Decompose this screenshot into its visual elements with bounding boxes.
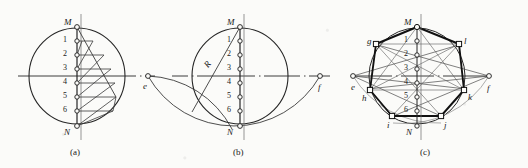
panel-b-division-5: 5 bbox=[227, 92, 231, 100]
panel-c-vertex-h: h bbox=[362, 94, 367, 103]
panel-b-drawing bbox=[146, 14, 330, 140]
panel-b-pole-f: f bbox=[318, 83, 321, 92]
panel-a-division-1: 1 bbox=[63, 36, 67, 44]
panel-b-pole-e: e bbox=[143, 82, 147, 91]
panel-c-pole-f: f bbox=[487, 84, 490, 93]
panel-a-division-5: 5 bbox=[63, 92, 67, 100]
panel-b-division-4: 4 bbox=[227, 78, 231, 86]
panel-c-division-3: 3 bbox=[404, 64, 408, 72]
panel-b-label-N: N bbox=[227, 128, 233, 137]
panel-c-division-6: 6 bbox=[404, 106, 408, 114]
panel-b-arc-from-M bbox=[148, 76, 232, 129]
panel-a-division-6: 6 bbox=[63, 106, 67, 114]
panel-a-division-2: 2 bbox=[63, 50, 67, 58]
panel-c-pole-e: e bbox=[351, 83, 355, 92]
panel-c-vertex-i: i bbox=[387, 121, 390, 130]
panel-b-division-1: 1 bbox=[227, 36, 231, 44]
panel-c-division-1: 1 bbox=[404, 36, 408, 44]
panel-b-division-6: 6 bbox=[227, 106, 231, 114]
panel-b-division-2: 2 bbox=[227, 50, 231, 58]
panel-c-label-N: N bbox=[406, 128, 412, 137]
panel-a-division-3: 3 bbox=[63, 64, 67, 72]
panel-c-division-5: 5 bbox=[404, 92, 408, 100]
panel-b-label-M: M bbox=[227, 18, 235, 27]
panel-c-vertex-g: g bbox=[367, 37, 372, 46]
panel-c-vertex-j: j bbox=[444, 121, 447, 130]
panel-c-division-4: 4 bbox=[404, 78, 408, 86]
panel-a-label-N: N bbox=[64, 128, 70, 137]
panel-a-drawing bbox=[18, 14, 155, 140]
caption-b: (b) bbox=[233, 148, 244, 157]
panel-c-vertex-k: k bbox=[468, 93, 472, 102]
caption-c: (c) bbox=[420, 148, 430, 157]
panel-a-label-M: M bbox=[64, 18, 72, 27]
panel-b-arc-from-N bbox=[148, 76, 320, 126]
panel-c-drawing bbox=[351, 14, 492, 140]
figure-heptagon-construction: M N 1 2 3 4 5 6 M N R 1 2 3 4 5 6 e f M … bbox=[0, 0, 528, 168]
panel-c-vertex-l: l bbox=[464, 37, 467, 46]
figure-canvas bbox=[0, 0, 528, 168]
panel-c-label-M: M bbox=[404, 18, 412, 27]
panel-a-division-4: 4 bbox=[63, 78, 67, 86]
panel-b-radius-line bbox=[192, 27, 240, 112]
caption-a: (a) bbox=[70, 148, 80, 157]
panel-c-division-2: 2 bbox=[404, 50, 408, 58]
panel-b-division-3: 3 bbox=[227, 64, 231, 72]
